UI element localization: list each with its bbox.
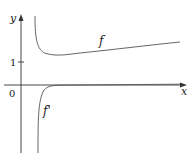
curve-label-f: f bbox=[98, 34, 106, 48]
origin-label: 0 bbox=[9, 88, 15, 99]
x-axis-label: x bbox=[181, 85, 188, 98]
y-axis-label: y bbox=[9, 12, 17, 25]
curve-f bbox=[35, 16, 180, 55]
curve-f-prime bbox=[38, 84, 180, 153]
y-axis-arrow-icon bbox=[19, 14, 24, 21]
curve-label-f-prime: f' bbox=[42, 104, 51, 118]
chart: y x 0 1 f f' bbox=[0, 0, 193, 159]
y-tick-label-1: 1 bbox=[10, 57, 16, 68]
